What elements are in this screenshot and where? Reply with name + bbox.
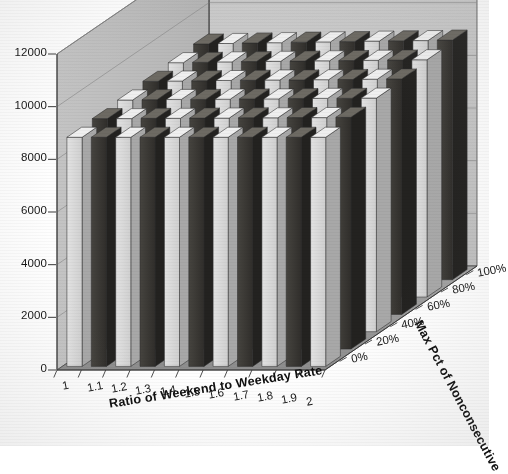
y-axis-tick-label: 6000 — [0, 204, 47, 216]
x-axis-tick-label: 1.1 — [86, 378, 104, 393]
y-axis-tick-label: 2000 — [0, 309, 47, 321]
y-axis-tick-label: 10000 — [0, 99, 47, 111]
y-axis-tick-label: 0 — [0, 362, 47, 374]
y-axis-tick-label: 12000 — [0, 46, 47, 58]
y-axis-tick-label: 8000 — [0, 151, 47, 163]
y-axis-tick-label: 4000 — [0, 257, 47, 269]
